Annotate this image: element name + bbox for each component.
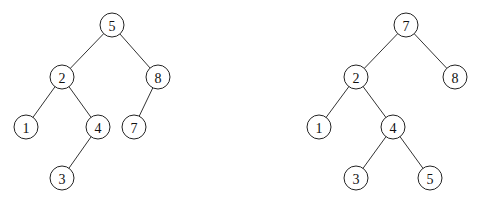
tree-node-7: 7 xyxy=(394,13,418,37)
right-tree: 7281435 xyxy=(307,13,467,190)
node-label: 8 xyxy=(155,71,162,86)
nodes-layer: 52814737281435 xyxy=(14,13,467,190)
left-tree-edges xyxy=(26,25,158,178)
tree-node-4: 4 xyxy=(86,115,110,139)
node-label: 3 xyxy=(353,172,360,187)
tree-node-7: 7 xyxy=(122,115,146,139)
tree-node-2: 2 xyxy=(50,65,74,89)
tree-node-5: 5 xyxy=(100,13,124,37)
tree-node-1: 1 xyxy=(14,115,38,139)
node-label: 7 xyxy=(403,19,410,34)
node-label: 4 xyxy=(390,121,397,136)
tree-node-1: 1 xyxy=(307,115,331,139)
node-label: 1 xyxy=(23,121,30,136)
right-tree-edges xyxy=(319,25,455,178)
tree-node-3: 3 xyxy=(344,166,368,190)
tree-node-3: 3 xyxy=(50,166,74,190)
node-label: 4 xyxy=(95,121,102,136)
edges-layer xyxy=(26,25,455,178)
node-label: 5 xyxy=(109,19,116,34)
tree-node-8: 8 xyxy=(146,65,170,89)
tree-node-4: 4 xyxy=(381,115,405,139)
node-label: 8 xyxy=(452,71,459,86)
node-label: 1 xyxy=(316,121,323,136)
tree-node-5: 5 xyxy=(418,166,442,190)
tree-node-8: 8 xyxy=(443,65,467,89)
tree-diagram-canvas: 52814737281435 xyxy=(0,0,478,203)
node-label: 2 xyxy=(353,71,360,86)
node-label: 7 xyxy=(131,121,138,136)
node-label: 5 xyxy=(427,172,434,187)
tree-node-2: 2 xyxy=(344,65,368,89)
node-label: 3 xyxy=(59,172,66,187)
node-label: 2 xyxy=(59,71,66,86)
